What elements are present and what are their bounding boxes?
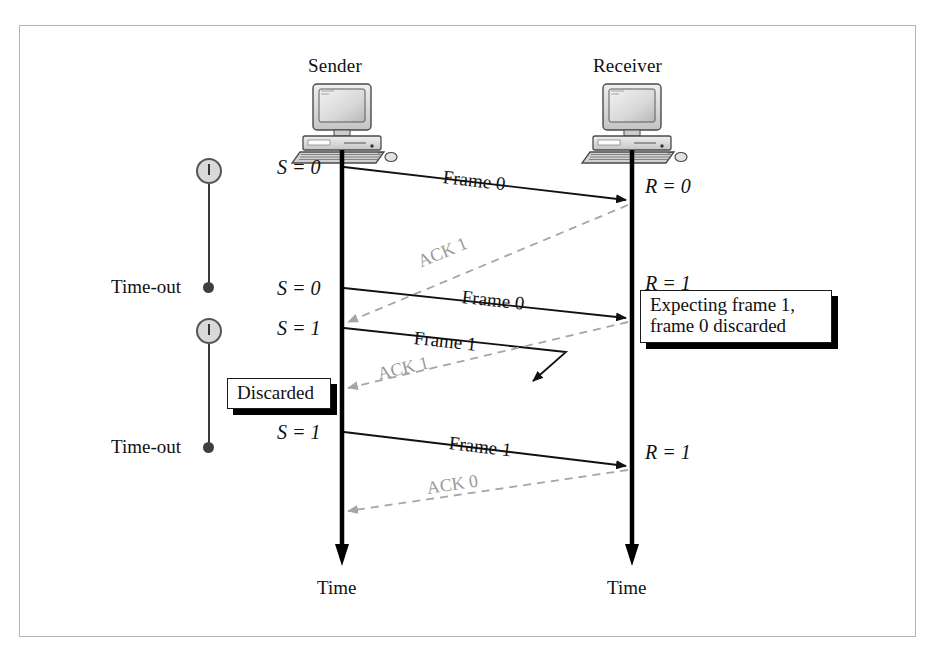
receiver-state-r1-second: R = 1 xyxy=(645,442,691,462)
expecting-frame-callout: Expecting frame 1, frame 0 discarded xyxy=(640,290,832,343)
timeout-label-2: Time-out xyxy=(111,437,181,456)
receiver-timeline-arrowhead xyxy=(625,544,639,566)
discarded-line-1: Discarded xyxy=(237,382,321,403)
timer-stem-1 xyxy=(208,184,210,284)
timer-clock-icon-2 xyxy=(196,318,222,344)
receiver-state-r0: R = 0 xyxy=(645,176,691,196)
sender-title: Sender xyxy=(308,56,362,75)
timeout-label-1: Time-out xyxy=(111,277,181,296)
receiver-computer-icon xyxy=(582,84,687,163)
timeout-dot-1 xyxy=(203,282,214,293)
receiver-title: Receiver xyxy=(593,56,662,75)
sender-state-s1-first: S = 1 xyxy=(277,318,321,338)
ack-0-arrow xyxy=(348,470,628,511)
sender-state-s1-retransmit: S = 1 xyxy=(277,422,321,442)
discarded-callout: Discarded xyxy=(227,378,331,409)
sender-state-s0-retransmit: S = 0 xyxy=(277,278,321,298)
expecting-frame-line-2: frame 0 discarded xyxy=(650,315,822,336)
sender-timeline-arrowhead xyxy=(335,544,349,566)
timer-clock-icon-1 xyxy=(196,158,222,184)
sender-state-s0-first: S = 0 xyxy=(277,157,321,177)
sender-computer-icon xyxy=(292,84,397,163)
diagram-canvas: Sender Receiver Time-out Time-out S = 0 … xyxy=(0,0,943,659)
sender-time-label: Time xyxy=(317,578,356,597)
timer-stem-2 xyxy=(208,344,210,444)
timeout-dot-2 xyxy=(203,442,214,453)
expecting-frame-line-1: Expecting frame 1, xyxy=(650,294,822,315)
receiver-time-label: Time xyxy=(607,578,646,597)
